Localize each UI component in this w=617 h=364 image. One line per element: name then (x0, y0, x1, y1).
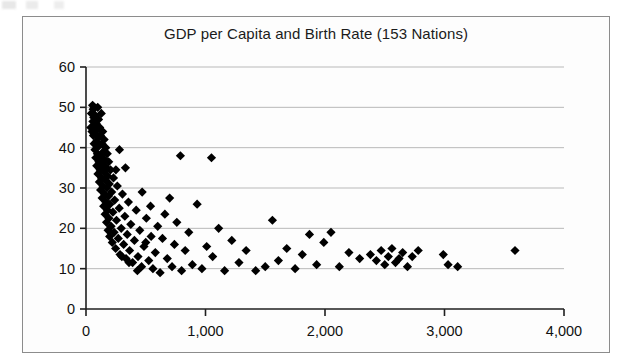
data-point (177, 266, 186, 275)
scatter-series (86, 101, 519, 278)
data-point (261, 262, 270, 271)
data-point (312, 260, 321, 269)
data-point (251, 266, 260, 275)
data-point (355, 254, 364, 263)
data-point (208, 252, 217, 261)
data-point (443, 260, 452, 269)
data-point (274, 256, 283, 265)
data-point (234, 258, 243, 267)
data-point (123, 230, 132, 239)
data-point (130, 236, 139, 245)
data-point (160, 210, 169, 219)
data-point (380, 260, 389, 269)
data-point (268, 216, 277, 225)
data-point (319, 238, 328, 247)
data-point (305, 230, 314, 239)
data-point (242, 246, 251, 255)
xtick-label: 0 (82, 323, 90, 339)
data-point (282, 244, 291, 253)
data-point (197, 264, 206, 273)
chart-frame: GDP per Capita and Birth Rate (153 Natio… (22, 16, 610, 353)
ytick-label: 50 (59, 99, 75, 115)
data-point (124, 198, 133, 207)
data-point (202, 242, 211, 251)
data-point (220, 266, 229, 275)
data-point (121, 163, 130, 172)
data-point (120, 212, 129, 221)
data-point (126, 220, 135, 229)
data-point (188, 260, 197, 269)
data-point (453, 262, 462, 271)
data-point (151, 248, 160, 257)
xtick-label: 4,000 (546, 323, 582, 339)
ytick-label: 30 (59, 180, 75, 196)
data-point (138, 187, 147, 196)
data-point (119, 240, 128, 249)
data-point (117, 224, 126, 233)
data-point (132, 206, 141, 215)
data-point (148, 264, 157, 273)
data-point (193, 200, 202, 209)
data-point (115, 145, 124, 154)
data-point (153, 222, 162, 231)
scatter-plot: 010203040506001,0002,0003,0004,000 (23, 17, 611, 354)
data-point (439, 250, 448, 259)
ytick-label: 40 (59, 140, 75, 156)
data-point (118, 189, 127, 198)
data-point (146, 202, 155, 211)
data-point (158, 234, 167, 243)
data-point (344, 248, 353, 257)
data-point (214, 224, 223, 233)
data-point (125, 246, 134, 255)
ytick-label: 60 (59, 59, 75, 75)
data-point (326, 228, 335, 237)
data-point (510, 246, 519, 255)
scan-noise-artifact (2, 1, 122, 9)
ytick-label: 0 (67, 301, 75, 317)
data-point (377, 246, 386, 255)
xtick-label: 3,000 (426, 323, 462, 339)
data-point (144, 256, 153, 265)
data-point (167, 262, 176, 271)
data-point (227, 236, 236, 245)
data-point (155, 268, 164, 277)
data-point (184, 228, 193, 237)
data-point (111, 165, 120, 174)
data-point (384, 252, 393, 261)
data-point (298, 250, 307, 259)
data-point (133, 252, 142, 261)
data-point (172, 218, 181, 227)
ytick-label: 20 (59, 220, 75, 236)
data-point (165, 193, 174, 202)
data-point (408, 252, 417, 261)
xtick-label: 2,000 (307, 323, 343, 339)
data-point (163, 254, 172, 263)
data-point (170, 240, 179, 249)
xtick-label: 1,000 (187, 323, 223, 339)
data-point (176, 151, 185, 160)
data-point (135, 226, 144, 235)
data-point (403, 262, 412, 271)
data-point (372, 256, 381, 265)
data-point (366, 250, 375, 259)
data-point (112, 216, 121, 225)
ytick-label: 10 (59, 261, 75, 277)
data-point (387, 244, 396, 253)
data-point (181, 246, 190, 255)
data-point (113, 181, 122, 190)
data-point (207, 153, 216, 162)
data-point (414, 246, 423, 255)
data-point (291, 264, 300, 273)
data-point (335, 262, 344, 271)
data-point (147, 232, 156, 241)
data-point (142, 214, 151, 223)
